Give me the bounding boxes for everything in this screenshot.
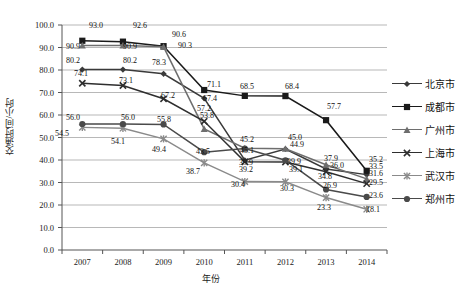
data-value-label: 45.1	[240, 147, 254, 155]
y-tick-label: 60.0	[22, 110, 54, 120]
data-value-label: 43.5	[196, 148, 210, 156]
x-tick-label: 2010	[187, 257, 221, 267]
data-value-label: 92.6	[133, 22, 147, 30]
legend-item-5[interactable]: 郑州市	[392, 187, 470, 210]
legend-marker-icon	[392, 124, 422, 136]
legend-marker-icon	[392, 170, 422, 182]
data-value-label: 31.6	[369, 170, 383, 178]
data-value-label: 34.8	[318, 173, 332, 181]
legend-label: 上海市	[425, 145, 455, 160]
data-value-label: 80.2	[66, 57, 80, 65]
data-value-label: 74.1	[74, 70, 88, 78]
x-tick-label: 2007	[65, 257, 99, 267]
y-tick-label: 10.0	[22, 223, 54, 233]
line-chart: 交通时间/小时 年份 0.010.020.030.040.050.060.070…	[0, 0, 471, 295]
data-value-label: 71.1	[207, 81, 221, 89]
data-value-label: 38.7	[186, 168, 200, 176]
y-tick-label: 20.0	[22, 200, 54, 210]
data-value-label: 30.3	[280, 185, 294, 193]
data-value-label: 45.2	[240, 136, 254, 144]
y-tick-label: 40.0	[22, 155, 54, 165]
data-value-label: 90.3	[178, 42, 192, 50]
data-value-label: 80.2	[123, 57, 137, 65]
data-value-label: 54.1	[111, 138, 125, 146]
data-value-label: 57.7	[327, 103, 341, 111]
data-value-label: 29.5	[369, 179, 383, 187]
data-value-label: 39.2	[239, 166, 253, 174]
data-value-label: 78.3	[152, 59, 166, 67]
data-value-label: 26.9	[323, 182, 337, 190]
data-value-label: 30.4	[231, 181, 245, 189]
legend-marker-icon	[392, 193, 422, 205]
data-value-label: 56.0	[121, 114, 135, 122]
data-value-label: 23.3	[317, 204, 331, 212]
y-tick-label: 70.0	[22, 88, 54, 98]
data-value-label: 39.1	[289, 166, 303, 174]
y-tick-label: 80.0	[22, 65, 54, 75]
y-axis-title: 交通时间/小时	[2, 98, 14, 155]
data-value-label: 49.4	[152, 146, 166, 154]
data-value-label: 23.6	[369, 192, 383, 200]
legend-item-3[interactable]: 上海市	[392, 141, 470, 164]
y-tick-label: 100.0	[22, 20, 54, 30]
legend-label: 成都市	[425, 99, 455, 114]
legend-label: 武汉市	[425, 168, 455, 183]
data-value-label: 68.4	[285, 83, 299, 91]
x-tick-label: 2008	[106, 257, 140, 267]
x-tick-label: 2012	[268, 257, 302, 267]
y-tick-label: 50.0	[22, 133, 54, 143]
data-value-label: 67.4	[203, 95, 217, 103]
data-value-label: 56.0	[66, 114, 80, 122]
data-value-label: 68.5	[240, 83, 254, 91]
x-tick-label: 2013	[309, 257, 343, 267]
y-tick-label: 0.0	[22, 245, 54, 255]
x-tick-label: 2014	[350, 257, 384, 267]
chart-legend: 北京市成都市广州市上海市武汉市郑州市	[392, 72, 470, 210]
legend-label: 广州市	[425, 122, 455, 137]
data-value-label: 55.8	[157, 116, 171, 124]
data-value-label: 93.0	[89, 22, 103, 30]
legend-item-1[interactable]: 成都市	[392, 95, 470, 118]
y-tick-label: 30.0	[22, 178, 54, 188]
data-value-label: 67.2	[161, 92, 175, 100]
legend-item-0[interactable]: 北京市	[392, 72, 470, 95]
data-value-label: 53.8	[200, 112, 214, 120]
data-value-label: 18.1	[366, 206, 380, 214]
legend-marker-icon	[392, 78, 422, 90]
legend-label: 郑州市	[425, 191, 455, 206]
legend-item-2[interactable]: 广州市	[392, 118, 470, 141]
y-tick-label: 90.0	[22, 43, 54, 53]
legend-label: 北京市	[425, 76, 455, 91]
legend-item-4[interactable]: 武汉市	[392, 164, 470, 187]
x-tick-label: 2011	[228, 257, 262, 267]
x-axis-title: 年份	[202, 272, 220, 285]
data-value-label: 54.5	[55, 130, 69, 138]
data-value-label: 36.0	[330, 162, 344, 170]
data-value-label: 90.9	[66, 43, 80, 51]
data-value-label: 73.1	[119, 77, 133, 85]
data-value-label: 90.6	[172, 31, 186, 39]
data-value-label: 44.9	[290, 141, 304, 149]
legend-marker-icon	[392, 101, 422, 113]
legend-marker-icon	[392, 147, 422, 159]
data-value-label: 90.9	[123, 43, 137, 51]
x-tick-label: 2009	[147, 257, 181, 267]
